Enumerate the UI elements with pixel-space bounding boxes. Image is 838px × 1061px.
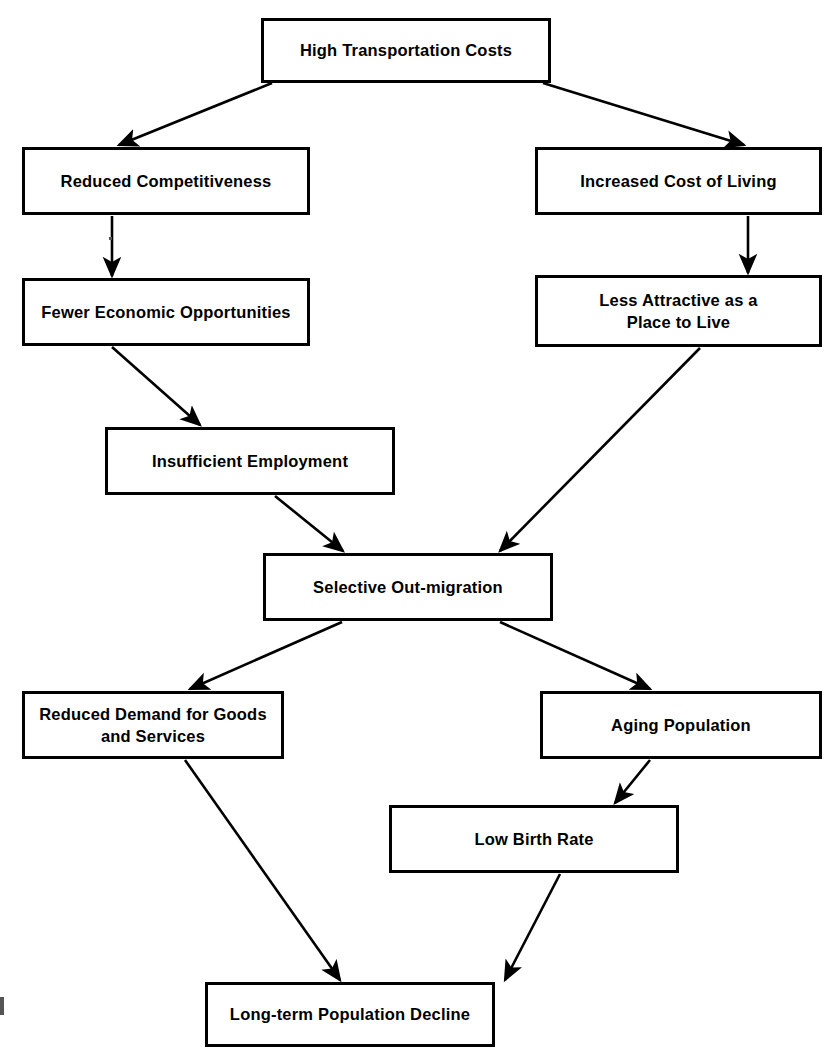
node-label: Insufficient Employment — [146, 450, 354, 472]
node-label: Low Birth Rate — [468, 828, 599, 850]
edge-outmigration-to-aging — [500, 622, 650, 689]
node-label: Fewer Economic Opportunities — [35, 301, 296, 323]
node-label: Reduced Demand for Goods and Services — [33, 703, 273, 748]
node-high-transportation-costs[interactable]: High Transportation Costs — [261, 18, 551, 83]
node-label: Aging Population — [605, 714, 757, 736]
node-less-attractive-place-to-live[interactable]: Less Attractive as a Place to Live — [535, 275, 822, 347]
node-reduced-competitiveness[interactable]: Reduced Competitiveness — [22, 147, 310, 215]
node-label: Selective Out-migration — [307, 576, 509, 598]
scan-speck-2 — [109, 237, 112, 240]
flowchart-canvas: High Transportation CostsReduced Competi… — [0, 0, 838, 1061]
edge-opportunities-to-employment — [112, 347, 200, 425]
node-label: Increased Cost of Living — [574, 170, 782, 192]
node-label: High Transportation Costs — [294, 39, 518, 61]
edge-demand-to-decline — [185, 760, 340, 980]
edge-employment-to-outmigration — [275, 496, 343, 551]
node-label: Long-term Population Decline — [224, 1003, 476, 1025]
node-label: Reduced Competitiveness — [55, 170, 278, 192]
node-insufficient-employment[interactable]: Insufficient Employment — [105, 427, 395, 495]
node-long-term-population-decline[interactable]: Long-term Population Decline — [205, 982, 495, 1047]
node-aging-population[interactable]: Aging Population — [540, 691, 822, 759]
edge-attractive-to-outmigration — [500, 348, 700, 551]
edge-costs-to-cost-of-living — [543, 83, 744, 145]
node-fewer-economic-opportunities[interactable]: Fewer Economic Opportunities — [22, 278, 310, 346]
edge-birth-rate-to-decline — [505, 874, 560, 980]
node-selective-out-migration[interactable]: Selective Out-migration — [263, 553, 553, 621]
edge-costs-to-competitiveness — [119, 83, 272, 145]
node-low-birth-rate[interactable]: Low Birth Rate — [389, 805, 679, 873]
edge-aging-to-birth-rate — [615, 760, 650, 803]
node-label: Less Attractive as a Place to Live — [593, 289, 763, 334]
node-increased-cost-of-living[interactable]: Increased Cost of Living — [535, 147, 822, 215]
scan-speck-4 — [0, 997, 4, 1015]
node-reduced-demand-goods-services[interactable]: Reduced Demand for Goods and Services — [22, 691, 284, 759]
edge-outmigration-to-demand — [190, 622, 342, 689]
